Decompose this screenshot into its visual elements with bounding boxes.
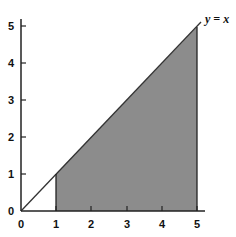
x-tick-label-1: 1	[53, 218, 59, 230]
curve-label: y = x	[203, 12, 229, 26]
x-tick-label-2: 2	[88, 218, 94, 230]
y-tick-label-5: 5	[8, 20, 14, 32]
y-tick-label-1: 1	[8, 168, 14, 180]
x-tick-label-5: 5	[194, 218, 200, 230]
y-tick-label-0: 0	[8, 205, 14, 217]
shaded-region	[56, 27, 197, 211]
y-tick-label-4: 4	[8, 57, 15, 69]
chart-canvas: 0 1 2 3 4 5 0 1 2 3 4 5 y = x	[0, 0, 236, 237]
x-tick-label-0: 0	[18, 218, 24, 230]
x-tick-label-4: 4	[159, 218, 166, 230]
x-tick-label-3: 3	[124, 218, 130, 230]
y-tick-label-2: 2	[8, 131, 14, 143]
y-tick-label-3: 3	[8, 94, 14, 106]
